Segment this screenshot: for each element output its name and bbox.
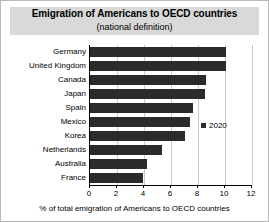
category-label: Australia [55, 157, 86, 171]
bar-row: Canada [90, 73, 251, 87]
x-axis-label: % of total emigration of Americans to OE… [1, 204, 268, 213]
bar [90, 145, 162, 155]
bar-rows: GermanyUnited KingdomCanadaJapanSpainMex… [90, 45, 251, 185]
category-label: Korea [65, 129, 86, 143]
x-tick-label: 2 [114, 189, 118, 198]
category-label: Netherlands [43, 143, 86, 157]
bar [90, 61, 226, 71]
x-tick-label: 4 [141, 189, 145, 198]
plot-area: GermanyUnited KingdomCanadaJapanSpainMex… [89, 45, 251, 185]
x-tick [89, 185, 90, 188]
bar-row: Japan [90, 87, 251, 101]
bar-row: United Kingdom [90, 59, 251, 73]
bar-row: Australia [90, 157, 251, 171]
bar [90, 75, 206, 85]
chart-title: Emigration of Americans to OECD countrie… [10, 8, 259, 20]
legend-label: 2020 [209, 121, 227, 130]
category-label: Spain [66, 101, 86, 115]
bar [90, 47, 226, 57]
x-tick-label: 12 [247, 189, 256, 198]
x-tick-label: 0 [87, 189, 91, 198]
bar-row: Korea [90, 129, 251, 143]
category-label: Canada [58, 73, 86, 87]
x-tick-label: 10 [220, 189, 229, 198]
bar [90, 159, 147, 169]
category-label: France [61, 171, 86, 185]
x-tick [224, 185, 225, 188]
legend-swatch-icon [201, 123, 206, 128]
bar-row: Spain [90, 101, 251, 115]
bar-row: Netherlands [90, 143, 251, 157]
bar [90, 89, 205, 99]
chart-legend: 2020 [201, 121, 227, 130]
x-tick [170, 185, 171, 188]
bar-row: Germany [90, 45, 251, 59]
bar [90, 173, 143, 183]
x-tick [251, 185, 252, 188]
bar-row: France [90, 171, 251, 185]
x-tick [197, 185, 198, 188]
bar [90, 103, 193, 113]
bar [90, 131, 185, 141]
chart-figure: Emigration of Americans to OECD countrie… [0, 0, 269, 222]
chart-subtitle: (national definition) [10, 22, 259, 33]
category-label: Japan [64, 87, 86, 101]
x-tick-label: 6 [168, 189, 172, 198]
category-label: Germany [53, 45, 86, 59]
category-label: Mexico [61, 115, 86, 129]
x-tick [143, 185, 144, 188]
category-label: United Kingdom [29, 59, 86, 73]
bar [90, 117, 190, 127]
gridline [252, 45, 253, 185]
x-tick-label: 8 [195, 189, 199, 198]
x-tick [116, 185, 117, 188]
